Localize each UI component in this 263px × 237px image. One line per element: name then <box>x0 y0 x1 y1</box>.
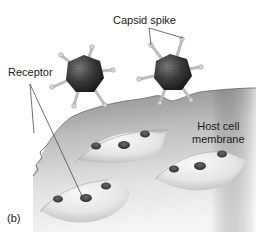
receptor-spot <box>53 196 63 203</box>
virus-particle-1 <box>50 45 116 109</box>
host-cell-label-line2: membrane <box>192 133 245 146</box>
receptor-spot <box>118 141 130 149</box>
diagram-canvas <box>0 0 263 237</box>
receptor-spot <box>101 183 111 190</box>
receptor-spot <box>169 166 179 173</box>
receptor-spot <box>91 143 101 150</box>
host-cell-label-line1: Host cell <box>192 120 245 133</box>
receptor-label: Receptor <box>8 66 53 79</box>
receptor-spot <box>194 162 206 170</box>
panel-label: (b) <box>7 212 20 225</box>
receptor-spot <box>140 131 150 138</box>
receptor-spot <box>217 151 227 158</box>
capsid-spike-label: Capsid spike <box>113 14 176 27</box>
capsid-spike-leader-lines <box>149 28 183 45</box>
virus-attachment-diagram: Capsid spike Receptor Host cell membrane… <box>0 0 263 237</box>
host-cell-membrane-label: Host cell membrane <box>192 120 245 146</box>
